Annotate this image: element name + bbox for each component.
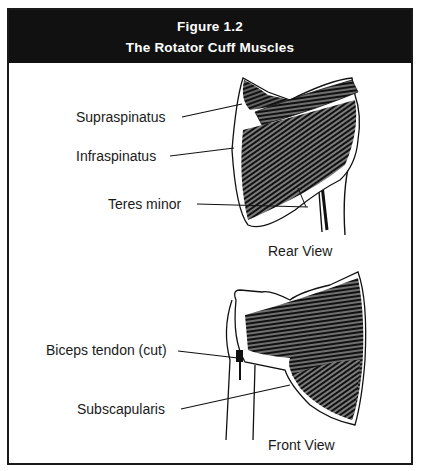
label-supraspinatus: Supraspinatus: [76, 109, 166, 125]
front-view-drawing: [226, 272, 366, 440]
rear-view-caption: Rear View: [268, 243, 332, 259]
label-infraspinatus: Infraspinatus: [76, 148, 156, 164]
rotator-cuff-illustration: [0, 0, 423, 471]
label-biceps-tendon: Biceps tendon (cut): [46, 342, 167, 358]
front-view-caption: Front View: [268, 437, 335, 453]
rear-view-drawing: [232, 78, 359, 235]
label-teres-minor: Teres minor: [108, 196, 181, 212]
label-subscapularis: Subscapularis: [77, 401, 165, 417]
